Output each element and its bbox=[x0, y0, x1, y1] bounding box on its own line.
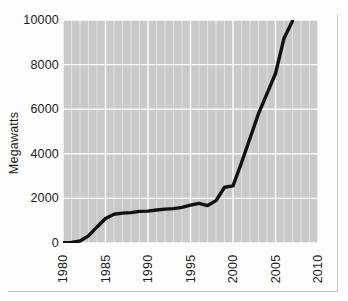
x-tick-label: 1990 bbox=[141, 246, 155, 292]
series-svg bbox=[63, 20, 318, 243]
x-tick-label: 1980 bbox=[56, 246, 70, 292]
y-tick-label: 8000 bbox=[0, 59, 59, 71]
x-tick-label: 1995 bbox=[184, 246, 198, 292]
series-line-installed-capacity bbox=[63, 21, 293, 243]
x-tick-label-text: 1985 bbox=[99, 255, 113, 284]
x-tick-label-text: 1990 bbox=[141, 255, 155, 284]
plot-area bbox=[63, 20, 318, 243]
x-axis-tick-labels: 1980198519901995200020052010 bbox=[0, 246, 348, 301]
x-tick-label: 2010 bbox=[311, 246, 325, 292]
y-tick-label: 10000 bbox=[0, 14, 59, 26]
x-tick-label-text: 1980 bbox=[56, 255, 70, 284]
x-tick-label-text: 1995 bbox=[184, 255, 198, 284]
chart-figure: Megawatts 0200040006000800010000 1980198… bbox=[0, 0, 348, 301]
x-tick-label: 1985 bbox=[99, 246, 113, 292]
y-tick-label: 2000 bbox=[0, 192, 59, 204]
x-tick-label: 2000 bbox=[226, 246, 240, 292]
x-tick-label-text: 2010 bbox=[311, 255, 325, 284]
y-tick-label: 4000 bbox=[0, 148, 59, 160]
data-layer bbox=[63, 20, 318, 243]
y-tick-label: 6000 bbox=[0, 103, 59, 115]
x-tick-label: 2005 bbox=[269, 246, 283, 292]
x-tick-label-text: 2000 bbox=[226, 255, 240, 284]
x-tick-label-text: 2005 bbox=[269, 255, 283, 284]
